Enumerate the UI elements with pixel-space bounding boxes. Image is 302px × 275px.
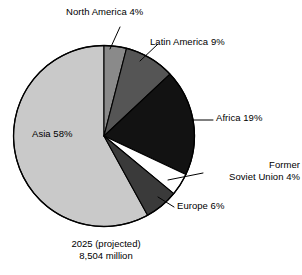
pie-chart-figure: North America 4% Latin America 9% Africa… <box>0 0 302 275</box>
slice-label-former-soviet-line1: Former <box>269 159 300 170</box>
slice-label-europe: Europe 6% <box>177 200 224 212</box>
caption-total: 8,504 million <box>0 250 212 262</box>
chart-caption: 2025 (projected) 8,504 million <box>0 238 212 262</box>
caption-year: 2025 (projected) <box>0 238 212 250</box>
slice-label-former-soviet-union: Former Soviet Union 4% <box>206 159 300 182</box>
slice-label-latin-america: Latin America 9% <box>150 36 225 48</box>
slice-label-asia: Asia 58% <box>32 128 73 140</box>
slice-label-former-soviet-line2: Soviet Union 4% <box>229 171 300 182</box>
slice-label-north-america: North America 4% <box>66 6 143 18</box>
slice-label-africa: Africa 19% <box>216 112 262 124</box>
